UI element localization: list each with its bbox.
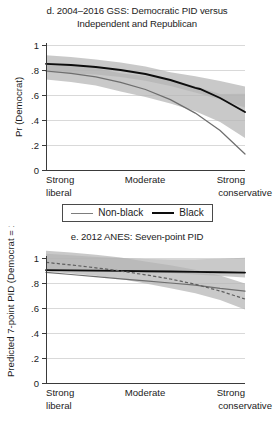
xtick-label-e-moderate: Moderate — [125, 387, 166, 398]
xtick-label-moderate: Moderate — [125, 174, 166, 185]
ytick-label-e-0: 0 — [34, 378, 39, 389]
panel-e-y-axis-title: Predicted 7-point PID (Democrat = 1) — [5, 226, 16, 377]
ytick-label-e-0-6: .6 — [31, 303, 39, 314]
panel-e-title-line1: e. 2012 ANES: Seven-point PID — [71, 231, 204, 242]
xtick-label-strong-conservative-line1: Strong — [217, 174, 245, 185]
legend-swatch-non-black-icon — [71, 213, 93, 214]
ytick-label-e-0-8: .8 — [31, 278, 39, 289]
xtick-label-e-strong-liberal-line2: liberal — [46, 400, 72, 411]
ytick-label-e-1: 1 — [34, 253, 39, 264]
xtick-label-strong-conservative-line2: conservative — [218, 187, 272, 198]
ytick-label-0: 0 — [34, 165, 39, 176]
legend-label-black: Black — [179, 208, 203, 218]
xtick-label-strong-liberal-line2: liberal — [46, 187, 72, 198]
xtick-label-strong-liberal-line1: Strong — [46, 174, 74, 185]
panel-d-plot: 1 .8 .6 .4 .2 0 Pr (Democrat) Strong lib… — [0, 0, 274, 200]
xtick-label-e-strong-conservative-line1: Strong — [217, 387, 245, 398]
panel-e-chart: e. 2012 ANES: Seven-point PID 1 .8 .6 — [0, 226, 274, 424]
chart-legend: Non-black Black — [62, 204, 213, 222]
ytick-label-0-2: .2 — [31, 140, 39, 151]
panel-e-title: e. 2012 ANES: Seven-point PID — [0, 230, 274, 243]
ytick-label-1: 1 — [34, 40, 39, 51]
ytick-label-e-0-2: .2 — [31, 353, 39, 364]
legend-label-non-black: Non-black — [98, 208, 143, 218]
panel-e-plot: 1 .8 .6 .4 .2 0 Predicted 7-point PID (D… — [0, 226, 274, 424]
ytick-label-0-8: .8 — [31, 65, 39, 76]
panel-d-title-line1: d. 2004–2016 GSS: Democratic PID versus — [46, 5, 227, 16]
legend-swatch-black-icon — [152, 212, 174, 214]
ytick-label-0-6: .6 — [31, 90, 39, 101]
legend-item-black[interactable]: Black — [152, 208, 203, 218]
ytick-label-e-0-4: .4 — [31, 328, 39, 339]
panel-d-y-axis-title: Pr (Democrat) — [13, 77, 24, 137]
ytick-label-0-4: .4 — [31, 115, 39, 126]
legend-item-non-black[interactable]: Non-black — [71, 208, 143, 218]
panel-d-title: d. 2004–2016 GSS: Democratic PID versus … — [0, 4, 274, 30]
panel-d-title-line2: Independent and Republican — [0, 17, 274, 30]
xtick-label-e-strong-conservative-line2: conservative — [218, 400, 272, 411]
panel-d-chart: d. 2004–2016 GSS: Democratic PID versus … — [0, 0, 274, 200]
xtick-label-e-strong-liberal-line1: Strong — [46, 387, 74, 398]
